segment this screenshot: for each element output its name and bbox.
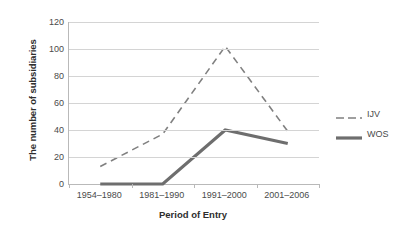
gridline — [69, 130, 319, 131]
x-tick-mark — [257, 184, 258, 188]
line-chart-figure: The number of subsidiaries 0204060801001… — [0, 0, 410, 234]
legend-swatch-ijv — [336, 109, 362, 119]
legend-label: WOS — [367, 129, 389, 139]
y-tick-label: 60 — [38, 99, 64, 108]
gridline — [69, 103, 319, 104]
gridline — [69, 22, 319, 23]
chart-legend: IJVWOS — [336, 104, 410, 144]
gridline — [69, 49, 319, 50]
legend-label: IJV — [367, 109, 380, 119]
y-tick-label: 20 — [38, 153, 64, 162]
series-line-ijv — [100, 46, 288, 166]
x-tick-mark — [319, 184, 320, 188]
y-tick-label: 0 — [38, 180, 64, 189]
y-tick-label: 120 — [38, 18, 64, 27]
x-tick-mark — [69, 184, 70, 188]
gridline — [69, 76, 319, 77]
legend-swatch-wos — [336, 129, 362, 139]
y-tick-label: 100 — [38, 45, 64, 54]
x-tick-label: 2001–2006 — [252, 190, 322, 200]
x-axis-tick-labels: 1954–19801981–19901991–20002001–2006 — [68, 190, 318, 204]
x-tick-label: 1991–2000 — [189, 190, 259, 200]
legend-entry-ijv[interactable]: IJV — [336, 104, 410, 124]
x-axis-title: Period of Entry — [68, 209, 318, 220]
y-tick-label: 80 — [38, 72, 64, 81]
legend-entry-wos[interactable]: WOS — [336, 124, 410, 144]
x-tick-mark — [194, 184, 195, 188]
x-tick-label: 1954–1980 — [64, 190, 134, 200]
plot-area — [68, 22, 319, 185]
x-tick-mark — [132, 184, 133, 188]
x-tick-label: 1981–1990 — [127, 190, 197, 200]
gridline — [69, 157, 319, 158]
y-axis-tick-labels: 020406080100120 — [34, 0, 64, 234]
y-tick-label: 40 — [38, 126, 64, 135]
